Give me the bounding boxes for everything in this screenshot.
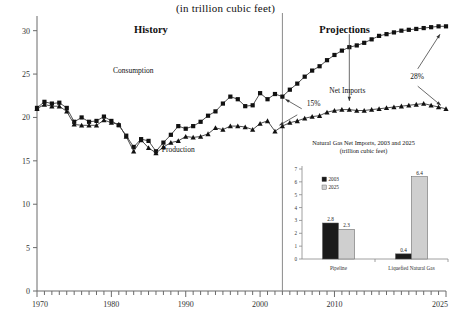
- inset-category-label: Pipeline: [330, 265, 348, 271]
- x-tick-label: 1970: [32, 300, 48, 309]
- x-tick-label: 1980: [103, 300, 119, 309]
- chart-figure: (in trillion cubic feet) 051015202530197…: [0, 0, 451, 319]
- y-tick-label: 5: [26, 244, 30, 253]
- inset-title-line2: (trillion cubic feet): [276, 147, 451, 155]
- inset-bar-value-label: 2.3: [343, 222, 350, 228]
- y-tick-label: 0: [26, 287, 30, 296]
- inset-bar-chart: Natural Gas Net Imports, 2003 and 2025 (…: [276, 139, 451, 284]
- inset-y-tick-label: 1: [294, 243, 297, 249]
- y-tick-label: 15: [22, 157, 30, 166]
- inset-bar-value-label: 0.4: [400, 247, 407, 253]
- x-tick-label: 2000: [252, 300, 268, 309]
- annotation-net-imports: Net Imports: [329, 86, 365, 95]
- inset-y-tick-label: 5: [294, 192, 297, 198]
- y-tick-label: 10: [22, 200, 30, 209]
- annotation-production: Production: [162, 145, 195, 154]
- inset-y-tick-label: 7: [294, 166, 297, 172]
- y-tick-label: 30: [22, 27, 30, 36]
- inset-bar-value-label: 6.4: [416, 170, 423, 176]
- y-tick-label: 25: [22, 70, 30, 79]
- inset-y-tick-label: 0: [294, 256, 297, 262]
- x-tick-label: 2010: [326, 300, 342, 309]
- x-tick-label: 1990: [178, 300, 194, 309]
- annotation-15-percent: 15%: [307, 99, 321, 108]
- inset-legend-label: 2025: [329, 184, 340, 190]
- inset-plot: 012345672.82.3Pipeline0.46.4Liquefied Na…: [276, 155, 451, 281]
- era-label-projections: Projections: [319, 24, 370, 35]
- annotation-consumption: Consumption: [113, 66, 153, 75]
- x-tick-label: 2025: [432, 300, 448, 309]
- annotation-28-percent: 28%: [410, 72, 424, 81]
- inset-y-tick-label: 4: [294, 205, 297, 211]
- inset-title-line1: Natural Gas Net Imports, 2003 and 2025: [276, 139, 451, 147]
- inset-y-tick-label: 6: [294, 179, 297, 185]
- inset-y-tick-label: 3: [294, 217, 297, 223]
- inset-y-tick-label: 2: [294, 230, 297, 236]
- era-label-history: History: [134, 24, 168, 35]
- inset-category-label: Liquefied Natural Gas: [388, 265, 434, 271]
- inset-legend-label: 2003: [329, 176, 340, 182]
- inset-bar-value-label: 2.8: [327, 216, 334, 222]
- y-tick-label: 20: [22, 113, 30, 122]
